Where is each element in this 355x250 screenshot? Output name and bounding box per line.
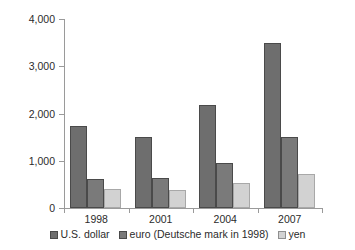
bar (264, 43, 281, 208)
x-tick-label: 2001 (131, 213, 191, 225)
y-tick-label: 1,000 (0, 156, 55, 166)
bar (135, 137, 152, 208)
legend-item[interactable]: yen (278, 229, 306, 240)
y-tick-label: 2,000 (0, 109, 55, 119)
y-tick-label: 3,000 (0, 61, 55, 71)
legend-swatch-icon (278, 231, 286, 239)
x-tick-mark (129, 208, 130, 213)
plot-area (64, 19, 322, 208)
legend-item[interactable]: U.S. dollar (50, 229, 110, 240)
x-tick-mark (64, 208, 65, 213)
bar-chart: daily average, $ billions 01,0002,0003,0… (0, 0, 355, 250)
x-tick-mark (193, 208, 194, 213)
bar (233, 183, 250, 208)
legend-item[interactable]: euro (Deutsche mark in 1998) (119, 229, 269, 240)
bar (87, 179, 104, 208)
legend-label: U.S. dollar (61, 229, 110, 240)
legend-swatch-icon (119, 231, 127, 239)
x-tick-mark (258, 208, 259, 213)
bar (298, 174, 315, 208)
bar (216, 163, 233, 208)
bar (169, 190, 186, 208)
x-tick-label: 1998 (66, 213, 126, 225)
legend-label: euro (Deutsche mark in 1998) (130, 229, 269, 240)
legend-swatch-icon (50, 231, 58, 239)
x-tick-label: 2004 (195, 213, 255, 225)
x-tick-mark (322, 208, 323, 213)
y-tick-label: 4,000 (0, 14, 55, 24)
bar (70, 126, 87, 208)
bar (104, 189, 121, 208)
bar (152, 178, 169, 208)
legend-label: yen (289, 229, 306, 240)
bar (281, 137, 298, 208)
y-tick-label: 0 (0, 203, 55, 213)
x-tick-label: 2007 (260, 213, 320, 225)
chart-legend: U.S. dollareuro (Deutsche mark in 1998)y… (0, 229, 355, 240)
bar (199, 105, 216, 208)
